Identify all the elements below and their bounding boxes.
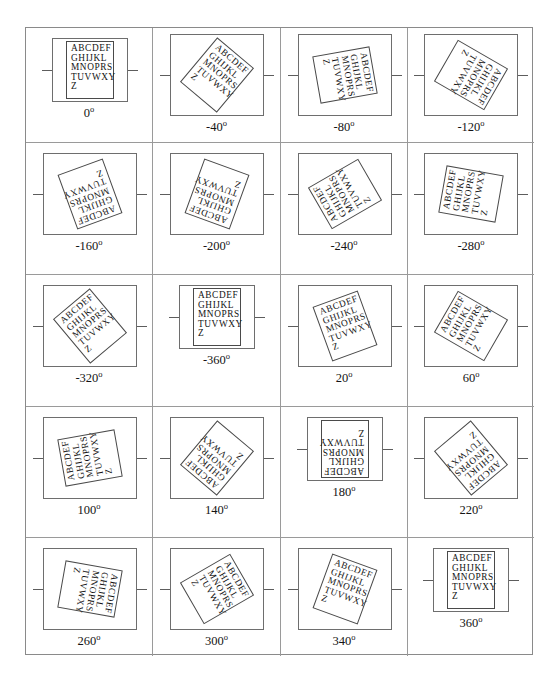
- angle-value: -320: [75, 371, 98, 385]
- axis-tick-right: [264, 458, 274, 459]
- axis-tick-right: [137, 326, 147, 327]
- axis-tick-left: [288, 75, 298, 76]
- axis-tick-right: [383, 449, 393, 450]
- axis-tick-left: [160, 458, 170, 459]
- angle-value: 20: [336, 371, 349, 385]
- axes-box: ABCDEF GHIJKL MNOPRS TUVWXY Z: [170, 153, 264, 235]
- axis-tick-right: [518, 75, 528, 76]
- angle-caption: 60o: [408, 369, 534, 386]
- subplot-cell: ABCDEF GHIJKL MNOPRS TUVWXY Z-120o: [408, 28, 534, 143]
- axis-tick-right: [128, 70, 138, 71]
- axis-tick-left: [414, 458, 424, 459]
- degree-symbol-icon: o: [348, 369, 352, 379]
- subplot-cell: ABCDEF GHIJKL MNOPRS TUVWXY Z360o: [408, 538, 534, 656]
- alphabet-card: ABCDEF GHIJKL MNOPRS TUVWXY Z: [180, 37, 254, 112]
- subplot-cell: ABCDEF GHIJKL MNOPRS TUVWXY Z-40o: [153, 28, 281, 143]
- degree-symbol-icon: o: [480, 237, 484, 247]
- subplot-cell: ABCDEF GHIJKL MNOPRS TUVWXY Z180o: [281, 407, 408, 538]
- axis-tick-left: [33, 326, 43, 327]
- angle-caption: 20o: [281, 369, 407, 386]
- alphabet-card: ABCDEF GHIJKL MNOPRS TUVWXY Z: [185, 159, 250, 230]
- axis-tick-right: [518, 326, 528, 327]
- subplot-grid: ABCDEF GHIJKL MNOPRS TUVWXY Z0oABCDEF GH…: [25, 27, 533, 655]
- subplot-cell: ABCDEF GHIJKL MNOPRS TUVWXY Z20o: [281, 275, 408, 407]
- axis-tick-right: [137, 458, 147, 459]
- axes-box: ABCDEF GHIJKL MNOPRS TUVWXY Z: [424, 285, 518, 367]
- axis-tick-right: [264, 194, 274, 195]
- degree-symbol-icon: o: [480, 118, 484, 128]
- axis-tick-right: [518, 458, 528, 459]
- axis-tick-left: [160, 75, 170, 76]
- degree-symbol-icon: o: [98, 369, 102, 379]
- axis-tick-right: [255, 317, 265, 318]
- alphabet-card: ABCDEF GHIJKL MNOPRS TUVWXY Z: [313, 291, 378, 362]
- axes-box: ABCDEF GHIJKL MNOPRS TUVWXY Z: [170, 548, 264, 630]
- angle-caption: -120o: [408, 118, 534, 135]
- axis-tick-left: [160, 194, 170, 195]
- angle-caption: 300o: [153, 632, 280, 649]
- angle-value: 180: [333, 485, 352, 499]
- subplot-cell: ABCDEF GHIJKL MNOPRS TUVWXY Z260o: [26, 538, 153, 656]
- angle-caption: 360o: [408, 614, 534, 631]
- angle-value: -80: [334, 120, 351, 134]
- subplot-cell: ABCDEF GHIJKL MNOPRS TUVWXY Z-280o: [408, 143, 534, 275]
- axis-tick-left: [288, 194, 298, 195]
- axis-tick-left: [160, 589, 170, 590]
- angle-value: -160: [75, 239, 98, 253]
- angle-caption: -200o: [153, 237, 280, 254]
- degree-symbol-icon: o: [96, 632, 100, 642]
- alphabet-card: ABCDEF GHIJKL MNOPRS TUVWXY Z: [434, 291, 508, 362]
- alphabet-card: ABCDEF GHIJKL MNOPRS TUVWXY Z: [58, 159, 123, 230]
- alphabet-card: ABCDEF GHIJKL MNOPRS TUVWXY Z: [57, 429, 122, 486]
- alphabet-card: ABCDEF GHIJKL MNOPRS TUVWXY Z: [53, 288, 127, 363]
- axis-tick-left: [169, 317, 179, 318]
- axis-tick-right: [264, 589, 274, 590]
- angle-value: -200: [203, 239, 226, 253]
- angle-value: -360: [203, 353, 226, 367]
- alphabet-card: ABCDEF GHIJKL MNOPRS TUVWXY Z: [321, 420, 369, 478]
- axes-box: ABCDEF GHIJKL MNOPRS TUVWXY Z: [424, 34, 518, 116]
- angle-value: 340: [333, 634, 352, 648]
- subplot-cell: ABCDEF GHIJKL MNOPRS TUVWXY Z340o: [281, 538, 408, 656]
- angle-caption: 0o: [26, 104, 152, 121]
- axes-box: ABCDEF GHIJKL MNOPRS TUVWXY Z: [170, 34, 264, 116]
- axes-box: ABCDEF GHIJKL MNOPRS TUVWXY Z: [424, 417, 518, 499]
- subplot-cell: ABCDEF GHIJKL MNOPRS TUVWXY Z60o: [408, 275, 534, 407]
- angle-value: -280: [457, 239, 480, 253]
- angle-value: 360: [460, 616, 479, 630]
- degree-symbol-icon: o: [351, 483, 355, 493]
- subplot-cell: ABCDEF GHIJKL MNOPRS TUVWXY Z-200o: [153, 143, 281, 275]
- degree-symbol-icon: o: [96, 501, 100, 511]
- degree-symbol-icon: o: [478, 614, 482, 624]
- axis-tick-left: [33, 458, 43, 459]
- axis-tick-left: [33, 194, 43, 195]
- axes-box: ABCDEF GHIJKL MNOPRS TUVWXY Z: [170, 417, 264, 499]
- alphabet-card: ABCDEF GHIJKL MNOPRS TUVWXY Z: [180, 420, 254, 495]
- axes-box: ABCDEF GHIJKL MNOPRS TUVWXY Z: [43, 417, 137, 499]
- axis-tick-right: [509, 580, 519, 581]
- degree-symbol-icon: o: [98, 237, 102, 247]
- alphabet-card: ABCDEF GHIJKL MNOPRS TUVWXY Z: [180, 554, 254, 625]
- axis-tick-left: [414, 326, 424, 327]
- degree-symbol-icon: o: [90, 104, 94, 114]
- angle-caption: -240o: [281, 237, 407, 254]
- degree-symbol-icon: o: [350, 118, 354, 128]
- axis-tick-right: [264, 75, 274, 76]
- angle-value: -120: [457, 120, 480, 134]
- alphabet-card: ABCDEF GHIJKL MNOPRS TUVWXY Z: [447, 551, 495, 609]
- axes-box: ABCDEF GHIJKL MNOPRS TUVWXY Z: [424, 153, 518, 235]
- axis-tick-right: [392, 326, 402, 327]
- axes-box: ABCDEF GHIJKL MNOPRS TUVWXY Z: [298, 548, 392, 630]
- subplot-cell: ABCDEF GHIJKL MNOPRS TUVWXY Z0o: [26, 28, 153, 143]
- angle-caption: 260o: [26, 632, 152, 649]
- axis-tick-left: [423, 580, 433, 581]
- degree-symbol-icon: o: [224, 501, 228, 511]
- axes-box: ABCDEF GHIJKL MNOPRS TUVWXY Z: [43, 153, 137, 235]
- subplot-cell: ABCDEF GHIJKL MNOPRS TUVWXY Z300o: [153, 538, 281, 656]
- alphabet-card: ABCDEF GHIJKL MNOPRS TUVWXY Z: [312, 46, 377, 103]
- degree-symbol-icon: o: [351, 632, 355, 642]
- subplot-cell: ABCDEF GHIJKL MNOPRS TUVWXY Z-320o: [26, 275, 153, 407]
- axes-box: ABCDEF GHIJKL MNOPRS TUVWXY Z: [52, 38, 128, 102]
- alphabet-card: ABCDEF GHIJKL MNOPRS TUVWXY Z: [66, 41, 114, 99]
- angle-caption: 220o: [408, 501, 534, 518]
